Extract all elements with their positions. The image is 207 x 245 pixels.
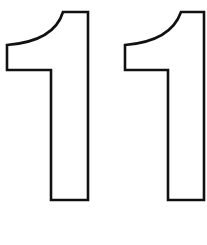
outline-canvas xyxy=(0,0,207,245)
